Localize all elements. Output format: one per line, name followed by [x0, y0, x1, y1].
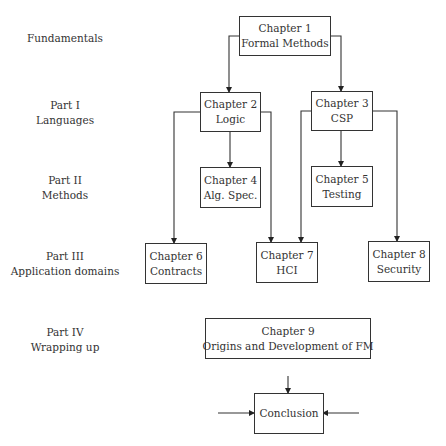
node-title: Chapter 1 [258, 21, 311, 36]
part-label-line1: Part I [0, 98, 130, 113]
node-title: Chapter 6 [149, 249, 202, 264]
node-subtitle: Contracts [150, 264, 202, 279]
chapter-dependency-diagram: Fundamentals Part I Languages Part II Me… [0, 0, 446, 446]
node-subtitle: Security [377, 262, 422, 277]
node-title: Chapter 5 [315, 172, 368, 187]
node-title: Chapter 2 [204, 97, 257, 112]
edge-ch3-ch7 [301, 111, 311, 242]
part-label-part1: Part I Languages [0, 98, 130, 128]
node-subtitle: Testing [323, 187, 362, 202]
node-title: Chapter 9 [261, 324, 314, 339]
node-chapter-1: Chapter 1 Formal Methods [239, 16, 331, 56]
node-chapter-5: Chapter 5 Testing [311, 166, 373, 207]
node-chapter-6: Chapter 6 Contracts [145, 243, 207, 284]
part-label-line1: Part II [0, 173, 130, 188]
part-label-line2: Languages [0, 113, 130, 128]
edge-ch2-ch6 [174, 112, 200, 243]
node-subtitle: HCI [276, 263, 297, 278]
part-label-line1: Fundamentals [0, 31, 130, 46]
node-subtitle: Origins and Development of FM [203, 339, 374, 354]
node-chapter-8: Chapter 8 Security [368, 241, 430, 282]
node-chapter-7: Chapter 7 HCI [256, 242, 318, 283]
part-label-line2: Application domains [0, 264, 130, 279]
part-label-part3: Part III Application domains [0, 249, 130, 279]
node-conclusion: Conclusion [254, 393, 324, 434]
part-label-part4: Part IV Wrapping up [0, 325, 130, 355]
node-subtitle: Alg. Spec. [204, 188, 258, 203]
node-title: Chapter 8 [372, 247, 425, 262]
node-subtitle: Formal Methods [241, 36, 328, 51]
connector-layer [0, 0, 446, 446]
part-label-line1: Part IV [0, 325, 130, 340]
node-subtitle: CSP [331, 111, 353, 126]
node-chapter-4: Chapter 4 Alg. Spec. [200, 167, 261, 208]
node-chapter-9: Chapter 9 Origins and Development of FM [205, 318, 371, 359]
node-title: Chapter 3 [315, 96, 368, 111]
node-title: Chapter 7 [260, 248, 313, 263]
part-label-part2: Part II Methods [0, 173, 130, 203]
node-title: Conclusion [260, 406, 319, 421]
part-label-line1: Part III [0, 249, 130, 264]
edge-ch3-ch8 [372, 111, 397, 241]
node-chapter-3: Chapter 3 CSP [311, 91, 373, 131]
edge-ch2-ch7 [260, 112, 271, 242]
part-label-line2: Methods [0, 188, 130, 203]
part-label-line2: Wrapping up [0, 340, 130, 355]
node-title: Chapter 4 [204, 173, 257, 188]
edge-ch1-ch2 [229, 36, 239, 92]
edge-ch1-ch3 [330, 36, 341, 91]
node-subtitle: Logic [216, 112, 245, 127]
node-chapter-2: Chapter 2 Logic [200, 92, 261, 132]
part-label-fundamentals: Fundamentals [0, 31, 130, 46]
